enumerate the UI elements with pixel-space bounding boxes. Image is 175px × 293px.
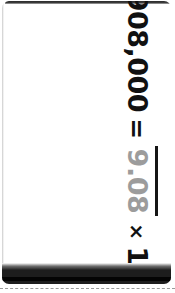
flash-card[interactable]: 908,000 = 9.08 × 10 5 © Carson Dellosa	[2, 1, 171, 284]
worksheet-page: 908,000 = 9.08 × 10 5 © Carson Dellosa	[0, 0, 175, 293]
cut-guide-line	[0, 288, 175, 289]
card-bottom-edge	[2, 263, 171, 284]
card-rotated-content: 908,000 = 9.08 × 10 5	[2, 1, 171, 284]
coefficient-answer-blank[interactable]: 9.08	[122, 146, 153, 217]
equation: 908,000 = 9.08 × 10 5	[122, 1, 153, 284]
equals-sign: =	[122, 118, 151, 138]
multiplication-sign: ×	[125, 223, 149, 239]
answer-rule-line	[155, 146, 158, 217]
equation-left-value: 908,000	[122, 1, 153, 112]
coefficient-value: 9.08	[122, 149, 153, 214]
